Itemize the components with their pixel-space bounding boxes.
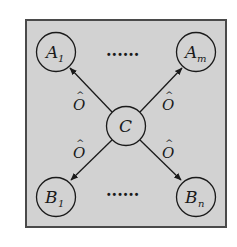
edge-label-text: O	[162, 96, 174, 114]
node-bn-label: B	[184, 187, 198, 207]
node-a1-label: A	[44, 42, 58, 62]
node-a1-subscript: 1	[58, 53, 64, 64]
edge-label-text: O	[162, 144, 174, 162]
node-bn: B n	[177, 178, 216, 217]
node-b1-subscript: 1	[58, 198, 64, 209]
node-am: A m	[177, 33, 216, 72]
node-a1: A 1	[37, 33, 76, 72]
edge-label-text: O	[73, 144, 85, 162]
ellipsis-bottom: ......	[106, 181, 139, 200]
node-am-subscript: m	[197, 53, 206, 64]
ellipsis-top: ......	[106, 41, 139, 60]
node-c: C	[107, 107, 146, 146]
node-b1-label: B	[44, 187, 58, 207]
node-am-label: A	[183, 42, 197, 62]
star-diagram: A 1 A m C B 1 B n ...... ...... ^ O ^ O …	[0, 0, 237, 247]
node-b1: B 1	[37, 178, 76, 217]
edge-label-text: O	[73, 96, 85, 114]
node-bn-subscript: n	[198, 198, 204, 209]
node-c-label: C	[119, 116, 132, 136]
